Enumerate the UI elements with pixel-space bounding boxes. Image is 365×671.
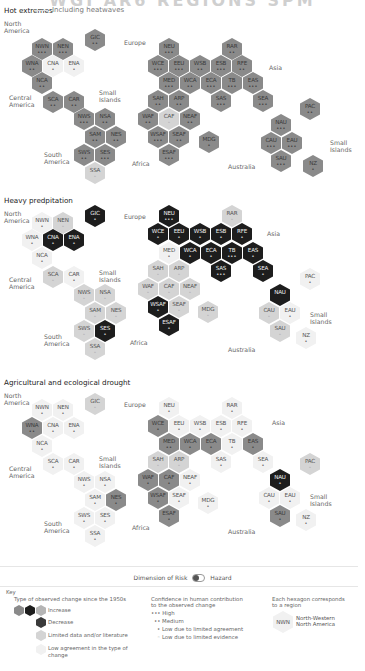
region-hexagon-nau[interactable]: NAU•••	[271, 114, 291, 136]
region-hexagon-med[interactable]: MED••	[159, 433, 179, 455]
region-hexagon-rar[interactable]: RAR◦	[222, 205, 242, 227]
region-hexagon-ena[interactable]: ENA•	[64, 417, 84, 439]
region-hexagon-wce[interactable]: WCE•	[148, 415, 168, 437]
region-hexagon-sws[interactable]: SWS◦	[74, 320, 94, 342]
region-hexagon-nen[interactable]: NEN•	[53, 399, 73, 421]
region-hexagon-seaf[interactable]: SEAF◦	[169, 296, 189, 318]
region-hexagon-nz[interactable]: NZ•	[296, 327, 316, 349]
region-hexagon-sah[interactable]: SAH••	[148, 90, 168, 112]
region-hexagon-car[interactable]: CAR•	[64, 453, 84, 475]
region-hexagon-wsaf[interactable]: WSAF•	[148, 296, 168, 318]
region-hexagon-gic[interactable]: GIC••	[85, 29, 105, 51]
region-hexagon-ssa[interactable]: SSA◦	[85, 338, 105, 360]
region-hexagon-sea[interactable]: SEA•••	[253, 90, 273, 112]
region-hexagon-eca[interactable]: ECA•	[201, 433, 221, 455]
region-hexagon-ssa[interactable]: SSA◦	[85, 162, 105, 184]
region-hexagon-sam[interactable]: SAM••	[85, 126, 105, 148]
region-hexagon-eas[interactable]: EAS•••	[243, 72, 263, 94]
region-hexagon-wna[interactable]: WNA••	[22, 417, 42, 439]
region-hexagon-sea[interactable]: SEA•	[253, 451, 273, 473]
region-hexagon-sws[interactable]: SWS••	[74, 144, 94, 166]
region-hexagon-pac[interactable]: PAC•	[300, 268, 320, 290]
region-hexagon-rar[interactable]: RAR•	[222, 397, 242, 419]
region-hexagon-sas[interactable]: SAS•••	[211, 260, 231, 282]
region-hexagon-sam[interactable]: SAM◦	[85, 302, 105, 324]
region-hexagon-caf[interactable]: CAF•	[159, 469, 179, 491]
region-hexagon-waf[interactable]: WAF◦	[138, 278, 158, 300]
region-hexagon-esaf[interactable]: ESAF•	[159, 314, 179, 336]
region-hexagon-mdg[interactable]: MDG◦	[198, 301, 218, 323]
region-hexagon-neaf[interactable]: NEAF•	[180, 469, 200, 491]
region-hexagon-med[interactable]: MED•	[159, 242, 179, 264]
region-hexagon-waf[interactable]: WAF••	[138, 108, 158, 130]
region-hexagon-arp[interactable]: ARP◦	[169, 260, 189, 282]
region-hexagon-rfe[interactable]: RFE•	[232, 223, 252, 245]
region-hexagon-wsb[interactable]: WSB•	[190, 223, 210, 245]
region-hexagon-seaf[interactable]: SEAF••	[169, 126, 189, 148]
region-hexagon-nws[interactable]: NWS◦	[74, 284, 94, 306]
region-hexagon-eeu[interactable]: EEU•	[169, 415, 189, 437]
region-hexagon-cau[interactable]: CAU◦	[259, 302, 279, 324]
region-hexagon-arp[interactable]: ARP◦	[169, 451, 189, 473]
region-hexagon-eau[interactable]: EAU•	[280, 487, 300, 509]
region-hexagon-nsa[interactable]: NSA◦	[95, 284, 115, 306]
region-hexagon-cna[interactable]: CNA•	[43, 417, 63, 439]
region-hexagon-neaf[interactable]: NEAF◦	[180, 278, 200, 300]
region-hexagon-sws[interactable]: SWS•	[74, 507, 94, 529]
region-hexagon-pac[interactable]: PAC◦	[300, 453, 320, 475]
region-hexagon-sca[interactable]: SCA•	[43, 453, 63, 475]
region-hexagon-nws[interactable]: NWS•	[74, 471, 94, 493]
region-hexagon-sas[interactable]: SAS•••	[211, 90, 231, 112]
region-hexagon-sah[interactable]: SAH◦	[148, 451, 168, 473]
region-hexagon-ena[interactable]: ENA•	[64, 55, 84, 77]
region-hexagon-ssa[interactable]: SSA•	[85, 525, 105, 547]
region-hexagon-wca[interactable]: WCA•	[180, 433, 200, 455]
region-hexagon-sca[interactable]: SCA◦	[43, 266, 63, 288]
region-hexagon-waf[interactable]: WAF•	[138, 469, 158, 491]
region-hexagon-gic[interactable]: GIC◦	[85, 393, 105, 415]
region-hexagon-tb[interactable]: TB•••	[222, 242, 242, 264]
region-hexagon-seaf[interactable]: SEAF•	[169, 487, 189, 509]
region-hexagon-esb[interactable]: ESB•	[211, 415, 231, 437]
region-hexagon-pac[interactable]: PAC••	[300, 98, 320, 120]
region-hexagon-sas[interactable]: SAS•	[211, 451, 231, 473]
region-hexagon-nau[interactable]: NAU•	[270, 469, 290, 491]
region-hexagon-nes[interactable]: NES••	[106, 126, 126, 148]
region-hexagon-wsb[interactable]: WSB•	[190, 415, 210, 437]
region-hexagon-wca[interactable]: WCA•	[180, 242, 200, 264]
region-hexagon-neaf[interactable]: NEAF••	[180, 108, 200, 130]
region-hexagon-eeu[interactable]: EEU•	[169, 223, 189, 245]
region-hexagon-caf[interactable]: CAF◦	[159, 278, 179, 300]
region-hexagon-car[interactable]: CAR•	[64, 266, 84, 288]
region-hexagon-nes[interactable]: NES•	[106, 489, 126, 511]
region-hexagon-sau[interactable]: SAU•••	[271, 150, 291, 172]
region-hexagon-ena[interactable]: ENA•	[64, 229, 84, 251]
region-hexagon-sau[interactable]: SAU•	[270, 505, 290, 527]
region-hexagon-neu[interactable]: NEU•	[159, 397, 179, 419]
region-hexagon-neu[interactable]: NEU•••	[159, 205, 179, 227]
region-hexagon-ses[interactable]: SES•••	[95, 144, 115, 166]
region-hexagon-cau[interactable]: CAU•••	[261, 132, 281, 154]
region-hexagon-nz[interactable]: NZ•	[296, 509, 316, 531]
region-hexagon-wce[interactable]: WCE•	[148, 223, 168, 245]
region-hexagon-eas[interactable]: EAS•	[243, 242, 263, 264]
region-hexagon-esb[interactable]: ESB•	[211, 223, 231, 245]
region-hexagon-sam[interactable]: SAM•	[85, 489, 105, 511]
region-hexagon-sau[interactable]: SAU◦	[270, 320, 290, 342]
region-hexagon-rfe[interactable]: RFE•	[232, 415, 252, 437]
region-hexagon-cau[interactable]: CAU•	[259, 487, 279, 509]
region-hexagon-eas[interactable]: EAS•	[243, 433, 263, 455]
region-hexagon-sea[interactable]: SEA•	[253, 260, 273, 282]
region-hexagon-eau[interactable]: EAU•	[280, 302, 300, 324]
region-hexagon-nes[interactable]: NES◦	[106, 302, 126, 324]
region-hexagon-wce[interactable]: WCE•••	[148, 55, 168, 77]
region-hexagon-nca[interactable]: NCA•	[32, 435, 52, 457]
region-hexagon-wsaf[interactable]: WSAF•••	[148, 126, 168, 148]
region-hexagon-nwn[interactable]: NWN•	[32, 399, 52, 421]
region-hexagon-eca[interactable]: ECA•	[201, 242, 221, 264]
region-hexagon-tb[interactable]: TB•	[222, 433, 242, 455]
region-hexagon-nsa[interactable]: NSA•	[95, 471, 115, 493]
region-hexagon-sah[interactable]: SAH◦	[148, 260, 168, 282]
region-hexagon-caf[interactable]: CAF◦	[159, 108, 179, 130]
region-hexagon-nca[interactable]: NCA•	[32, 247, 52, 269]
